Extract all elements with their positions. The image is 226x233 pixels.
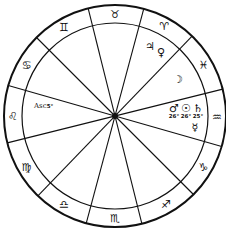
astrological-chart: ♉︎♈︎♓︎♒︎♑︎♐︎♏︎♎︎♍︎♌︎♋︎♊︎ ♃︎♀︎☽︎♂︎26°☉︎26… [0,0,226,233]
sign-pisces-icon: ♓︎ [198,59,208,72]
planet-sun-degree: 26° [181,113,192,119]
sign-gemini-icon: ♊︎ [59,21,69,34]
sign-libra-icon: ♎︎ [59,198,69,211]
sign-taurus-icon: ♉︎ [110,8,120,21]
center-dot [112,113,118,119]
ascendant-label: Asc [33,102,47,110]
sign-aries-icon: ♈︎ [160,20,170,33]
planet-glyphs: ♃︎♀︎☽︎♂︎26°☉︎26°♄︎25°☿︎ [145,40,203,134]
ascendant-marker: Asc 5° [33,102,54,110]
ascendant-degree: 5° [47,103,54,109]
planet-moon-icon: ☽︎ [173,73,183,86]
sign-capricorn-icon: ♑︎ [198,161,208,174]
planet-venus-icon: ♀︎ [157,46,165,59]
planet-mars-degree: 26° [169,113,180,119]
sign-scorpio-icon: ♏︎ [110,212,120,225]
sign-virgo-icon: ♍︎ [22,161,32,174]
sign-aquarius-icon: ♒︎ [212,111,222,124]
sign-leo-icon: ♌︎ [8,110,18,123]
sign-sagittarius-icon: ♐︎ [161,198,171,211]
planet-mercury-icon: ☿︎ [192,121,199,134]
planet-jupiter-icon: ♃︎ [145,40,155,53]
planet-saturn-degree: 25° [193,113,204,119]
sign-cancer-icon: ♋︎ [22,59,32,72]
